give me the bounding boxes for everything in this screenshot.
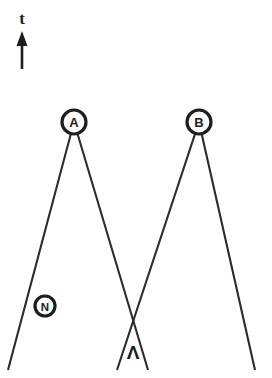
node-n[interactable]: N [35,296,55,316]
time-axis-label: t [19,9,25,28]
diagram-svg: t Λ A B N [0,0,272,378]
node-n-label: N [41,301,49,313]
node-a[interactable]: A [62,110,86,134]
node-b-label: B [194,115,203,130]
node-b[interactable]: B [187,110,211,134]
diagram-canvas: t Λ A B N [0,0,272,378]
node-a-label: A [69,115,79,130]
up-arrow-icon [17,31,28,69]
time-axis-group: t [17,9,28,70]
peak-a-path [8,122,148,370]
lambda-symbol: Λ [127,342,140,363]
